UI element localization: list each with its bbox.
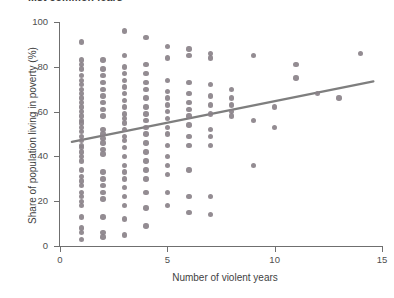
y-tick-label: 80 xyxy=(37,62,48,72)
data-point xyxy=(165,116,170,121)
data-point xyxy=(186,107,191,112)
data-point xyxy=(100,190,105,195)
data-point xyxy=(165,131,170,136)
y-tick-mark xyxy=(54,156,59,157)
x-tick-mark xyxy=(275,247,276,252)
data-point xyxy=(143,190,148,195)
x-axis-line xyxy=(60,246,383,247)
data-point xyxy=(122,176,127,181)
x-tick-mark xyxy=(382,247,383,252)
data-point xyxy=(186,143,191,148)
data-point xyxy=(208,143,213,148)
y-tick-label: 20 xyxy=(37,196,48,206)
y-tick-mark xyxy=(54,67,59,68)
y-axis-title: Share of population living in poverty (%… xyxy=(27,26,38,246)
data-point xyxy=(122,64,127,69)
data-point xyxy=(100,169,105,174)
y-tick-label: 40 xyxy=(37,151,48,161)
data-point xyxy=(186,210,191,215)
data-point xyxy=(143,205,148,210)
data-point xyxy=(143,167,148,172)
data-point xyxy=(143,118,148,123)
y-tick-mark xyxy=(54,22,59,23)
data-point xyxy=(165,125,170,130)
data-point xyxy=(143,35,148,40)
data-point xyxy=(100,183,105,188)
data-point xyxy=(79,237,84,242)
data-point xyxy=(79,214,84,219)
chart-title: ...st common fears xyxy=(28,0,123,3)
data-point xyxy=(165,154,170,159)
x-axis-title: Number of violent years xyxy=(0,272,394,283)
data-point xyxy=(143,87,148,92)
data-point xyxy=(208,111,213,116)
data-point xyxy=(186,194,191,199)
data-point xyxy=(79,66,84,71)
data-point xyxy=(100,176,105,181)
data-point xyxy=(165,163,170,168)
data-point xyxy=(143,176,148,181)
data-point xyxy=(143,131,148,136)
data-point xyxy=(100,66,105,71)
data-point xyxy=(100,113,105,118)
data-point xyxy=(100,80,105,85)
data-point xyxy=(165,143,170,148)
x-tick-mark xyxy=(167,247,168,252)
data-point xyxy=(79,167,84,172)
plot-area xyxy=(60,22,382,246)
data-point xyxy=(208,102,213,107)
data-point xyxy=(143,149,148,154)
data-point xyxy=(208,55,213,60)
data-point xyxy=(143,62,148,67)
data-point xyxy=(165,55,170,60)
data-point xyxy=(186,46,191,51)
data-point xyxy=(165,172,170,177)
data-point xyxy=(208,93,213,98)
data-point xyxy=(122,78,127,83)
y-tick-mark xyxy=(54,112,59,113)
data-point xyxy=(229,102,234,107)
data-point xyxy=(186,122,191,127)
data-point xyxy=(186,167,191,172)
data-point xyxy=(186,53,191,58)
data-point xyxy=(251,118,256,123)
x-tick-label: 0 xyxy=(48,255,72,265)
data-point xyxy=(165,78,170,83)
data-point xyxy=(79,39,84,44)
y-tick-label: 0 xyxy=(43,241,48,251)
data-point xyxy=(251,163,256,168)
data-point xyxy=(79,158,84,163)
data-point xyxy=(122,169,127,174)
data-point xyxy=(165,190,170,195)
data-point xyxy=(122,216,127,221)
data-point xyxy=(143,223,148,228)
scatter-chart-figure: ...st common fears 020406080100 051015 N… xyxy=(0,0,394,298)
x-tick-label: 5 xyxy=(155,255,179,265)
data-point xyxy=(186,134,191,139)
data-point xyxy=(165,102,170,107)
data-point xyxy=(100,87,105,92)
data-point xyxy=(100,214,105,219)
data-point xyxy=(143,158,148,163)
data-point xyxy=(122,104,127,109)
y-tick-mark xyxy=(54,201,59,202)
data-point xyxy=(143,95,148,100)
data-point xyxy=(143,80,148,85)
data-point xyxy=(336,95,341,100)
y-tick-label: 60 xyxy=(37,107,48,117)
data-point xyxy=(122,163,127,168)
data-point xyxy=(143,71,148,76)
trend-line-path xyxy=(72,81,374,141)
data-point xyxy=(186,80,191,85)
data-point xyxy=(143,111,148,116)
data-point xyxy=(100,57,105,62)
data-point xyxy=(143,125,148,130)
data-point xyxy=(165,95,170,100)
data-point xyxy=(186,100,191,105)
data-point xyxy=(186,113,191,118)
data-point xyxy=(143,104,148,109)
data-point xyxy=(293,62,298,67)
data-point xyxy=(122,232,127,237)
x-tick-mark xyxy=(60,247,61,252)
data-point xyxy=(143,140,148,145)
